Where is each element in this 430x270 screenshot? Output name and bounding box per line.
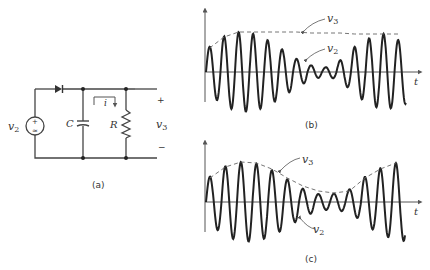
resistor-icon [122, 110, 130, 138]
output-label: v3 [156, 118, 167, 132]
wire-bottom [35, 135, 157, 158]
waveform-panel-c: t v3 v2 (c) [205, 142, 420, 264]
ac-voltage-source: + ≃ [26, 117, 44, 135]
node-top-r [124, 87, 128, 91]
waveform-panel-b: t v3 v2 (b) [205, 10, 420, 130]
v3-pointer-c [280, 158, 300, 171]
v2-pointer-b [306, 49, 325, 60]
circuit-diagram [35, 89, 157, 158]
caption-c: (c) [305, 254, 317, 264]
diode-icon [55, 85, 63, 93]
caption-b: (b) [305, 120, 318, 130]
source-label: v2 [8, 120, 19, 134]
node-bottom-c [81, 156, 85, 160]
resistor-label: R [109, 119, 118, 130]
figure-canvas: + ≃ v2 C R i + − v3 (a) t v3 v2 [0, 0, 430, 270]
node-top-c [81, 87, 85, 91]
capacitor-icon [77, 121, 89, 126]
source-tilde-sign: ≃ [32, 127, 38, 135]
caption-a: (a) [92, 180, 105, 190]
v3-label-c: v3 [302, 153, 313, 167]
source-plus-sign: + [32, 118, 38, 126]
output-plus-sign: + [157, 95, 165, 105]
v3-pointer-b [303, 19, 325, 32]
t-label-c: t [414, 206, 419, 217]
v3-label-b: v3 [327, 12, 338, 26]
node-bottom-r [124, 156, 128, 160]
v2-label-b: v2 [327, 42, 338, 56]
v2-label-c: v2 [313, 223, 324, 237]
output-minus-sign: − [158, 142, 166, 152]
capacitor-label: C [66, 118, 74, 129]
t-label-b: t [414, 76, 419, 87]
current-label: i [104, 98, 107, 108]
